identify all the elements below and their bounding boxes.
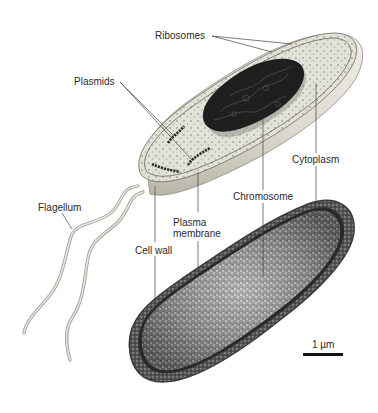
bacterial-cell-figure: Ribosomes Plasmids Cytoplasm Chromosome … — [0, 0, 378, 413]
label-plasma-membrane-line1: Plasma — [173, 217, 206, 228]
label-plasma-membrane: Plasma membrane — [173, 217, 221, 239]
scale-bar-label: 1 µm — [312, 339, 334, 350]
cell-illustration — [139, 33, 363, 195]
scale-bar — [303, 353, 343, 356]
label-chromosome: Chromosome — [233, 191, 293, 202]
label-plasma-membrane-line2: membrane — [173, 228, 221, 239]
label-flagellum: Flagellum — [38, 202, 81, 213]
label-plasmids: Plasmids — [74, 76, 115, 87]
label-ribosomes: Ribosomes — [155, 30, 205, 41]
label-cytoplasm: Cytoplasm — [292, 154, 339, 165]
label-cell-wall: Cell wall — [135, 245, 172, 256]
